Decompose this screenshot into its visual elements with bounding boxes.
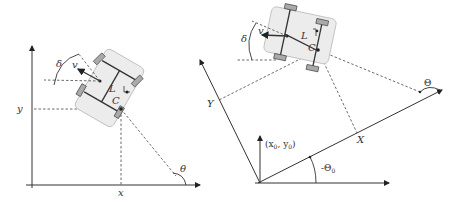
label-X: X bbox=[356, 134, 365, 145]
label-L: L bbox=[300, 30, 308, 41]
label-v: v bbox=[258, 25, 264, 36]
heading-line bbox=[121, 109, 176, 176]
heading-line bbox=[318, 50, 420, 92]
label-delta: δ bbox=[56, 58, 62, 69]
neg-theta0-arc bbox=[310, 157, 316, 183]
label-delta: δ bbox=[241, 33, 247, 44]
label-v: v bbox=[72, 59, 78, 70]
theta-arc bbox=[173, 173, 186, 185]
vehicle-kinematics-figure: y x θ δ v L C bbox=[0, 0, 462, 202]
right-diagram: Y X Θ δ v L C (x0, y0) -Θ0 bbox=[200, 1, 442, 183]
wheel bbox=[306, 64, 319, 71]
label-neg-theta0: -Θ0 bbox=[321, 163, 335, 174]
car-right bbox=[261, 1, 338, 73]
label-origin: (x0, y0) bbox=[265, 139, 296, 150]
rear-axle-point bbox=[316, 48, 320, 52]
label-theta: θ bbox=[180, 163, 186, 174]
label-Y: Y bbox=[207, 98, 215, 109]
label-L: L bbox=[108, 83, 116, 94]
Y-axis bbox=[200, 60, 260, 183]
label-C: C bbox=[112, 95, 120, 106]
neg-theta0-arc-end bbox=[309, 156, 312, 159]
label-y: y bbox=[16, 103, 23, 114]
Theta-arc bbox=[420, 87, 440, 92]
label-x: x bbox=[118, 187, 124, 198]
Theta-arc-end bbox=[419, 91, 421, 93]
com-point bbox=[126, 91, 129, 94]
com-point bbox=[316, 30, 319, 33]
label-C: C bbox=[308, 42, 316, 53]
left-diagram: y x θ δ v L C bbox=[16, 45, 200, 198]
delta-arc bbox=[249, 23, 256, 60]
rear-axle-point bbox=[119, 107, 123, 111]
label-Theta: Θ bbox=[424, 78, 431, 88]
X-axis bbox=[258, 90, 442, 183]
